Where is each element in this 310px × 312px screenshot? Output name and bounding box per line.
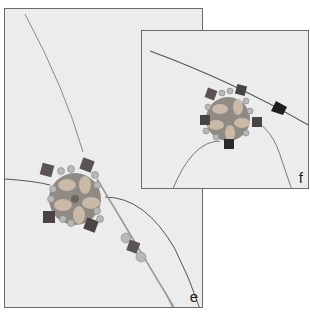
panel-label-e: e [190,289,198,304]
photo-panel-f: f [141,30,309,189]
strung-beads-e [121,233,146,262]
panel-label-f: f [299,170,303,185]
bead-star-e [40,157,104,232]
beadwork-photo-f [142,31,309,189]
bead-star-f [200,84,262,149]
crystal-bicone-f [271,101,287,115]
